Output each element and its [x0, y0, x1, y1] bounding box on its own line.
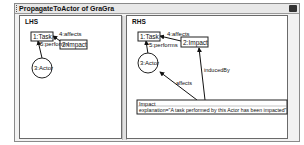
- window-title: PropagateToActor of GraGra: [19, 4, 114, 13]
- rhs-new-impact-attribute: explanation="A task performed by this Ac…: [139, 107, 287, 113]
- rhs-node-impact[interactable]: 2:Impact: [181, 37, 208, 47]
- lhs-node-actor-label: 3:Actor: [34, 65, 53, 71]
- rhs-edge-performs[interactable]: [146, 41, 148, 54]
- rhs-node-new-impact[interactable]: Impact explanation="A task performed by …: [137, 100, 287, 114]
- rhs-node-task[interactable]: 1:Task: [138, 32, 160, 41]
- lhs-node-task-label: 1:Task: [33, 33, 53, 40]
- rhs-edge-new-affects[interactable]: [160, 72, 197, 100]
- lhs-edge-performs-label: 5:performs: [40, 41, 69, 47]
- rhs-edge-new-affects-label: affects: [176, 80, 192, 86]
- lhs-node-task[interactable]: 1:Task: [31, 32, 53, 41]
- rhs-edge-induced-by-label: inducedBy: [204, 67, 230, 73]
- rhs-graph: 1:Task 2:Impact 3:Actor Impact explanati…: [127, 16, 289, 140]
- rhs-node-task-label: 1:Task: [140, 33, 160, 40]
- rule-editor-window: PropagateToActor of GraGra LHS 1:Task 2:…: [14, 3, 300, 142]
- lhs-graph: 1:Task 2:Impact 3:Actor 4:affects 5:perf…: [20, 16, 123, 140]
- lhs-node-actor[interactable]: 3:Actor: [32, 58, 53, 78]
- lhs-panel: LHS 1:Task 2:Impact 3:Ac: [19, 15, 122, 139]
- rhs-edge-performs-label: 5:performs: [149, 42, 178, 48]
- rhs-edge-affects-label: 4:affects: [167, 31, 190, 37]
- rhs-panel: RHS 1:Task 2:Impact: [126, 15, 288, 139]
- rhs-new-impact-title: Impact: [139, 101, 156, 107]
- title-bar[interactable]: PropagateToActor of GraGra: [15, 4, 299, 14]
- rhs-node-actor[interactable]: 3:Actor: [138, 53, 159, 73]
- window-menu-icon[interactable]: [289, 5, 297, 12]
- rhs-edge-induced-by[interactable]: [199, 48, 205, 100]
- rhs-node-actor-label: 3:Actor: [140, 60, 159, 66]
- rhs-node-impact-label: 2:Impact: [183, 39, 208, 47]
- lhs-edge-affects-label: 4:affects: [59, 31, 82, 37]
